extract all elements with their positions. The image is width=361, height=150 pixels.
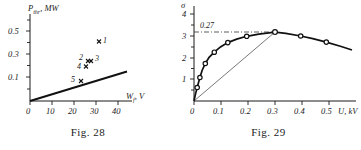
figure-29-caption: Fig. 29 (176, 126, 361, 138)
fig28-point-5 (79, 79, 83, 83)
fig28-point-label-4: 4 (77, 62, 81, 71)
fig29-x-axis-label: U, kV (338, 106, 359, 116)
fig29-xtick-label-03: 0.3 (267, 106, 278, 116)
fig29-ytick-label-3: 3 (181, 31, 186, 41)
fig29-xtick-label-05: 0.5 (321, 106, 332, 116)
fig29-point-1 (195, 85, 199, 89)
fig28-fit-line (30, 72, 127, 102)
fig28-xtick-label-40: 40 (112, 106, 121, 116)
fig28-ytick-label-03: 0.3 (8, 49, 19, 59)
fig28-point-3 (89, 59, 93, 63)
fig28-xtick-label-10: 10 (46, 106, 55, 116)
fig28-ytick-label-05: 0.5 (8, 26, 19, 36)
fig28-xtick-label-20: 20 (68, 106, 77, 116)
fig28-x-axis-label: Wf, V (126, 91, 146, 103)
fig29-ytick-label-2: 2 (182, 53, 187, 63)
fig28-point-label-1: 1 (103, 36, 107, 45)
fig29-point-2 (198, 75, 202, 79)
fig28-point-4 (84, 65, 88, 69)
fig29-ytick-label-4: 4 (182, 9, 187, 19)
fig29-x-axis-label-unit: , kV (344, 106, 359, 116)
fig28-xtick-label-0: 0 (26, 106, 31, 116)
fig28-ytick-label-01: 0.1 (8, 72, 19, 82)
fig28-point-label-3: 3 (94, 54, 99, 63)
fig29-xtick-label-02: 0.2 (240, 106, 251, 116)
fig28-plot: 0.5 0.3 0.1 0 10 20 30 40 Pthr, MW Wf, V (0, 0, 176, 126)
fig29-point-6 (245, 34, 249, 38)
fig29-xtick-label-01: 0.1 (213, 106, 224, 116)
fig28-point-label-5: 5 (71, 75, 75, 84)
fig29-peak-annotation: 0.27 (200, 21, 215, 30)
fig29-chord-line (194, 32, 275, 101)
fig29-xtick-label-0: 0 (190, 106, 195, 116)
fig28-xtick-label-30: 30 (89, 106, 99, 116)
fig29-point-9 (324, 40, 328, 44)
fig29-data-points (195, 30, 329, 90)
fig29-point-3 (203, 61, 207, 65)
fig29-ytick-label-1: 1 (182, 74, 186, 84)
fig29-point-4 (212, 50, 216, 54)
fig28-y-axis-label: Pthr, MW (27, 3, 60, 15)
fig28-x-axis-label-unit: , V (135, 91, 146, 101)
fig29-point-5 (226, 40, 230, 44)
fig29-plot: 4 3 2 1 σ 0 0.1 0.2 0.3 0.4 0.5 U, kV 0.… (176, 0, 361, 126)
fig29-point-8 (299, 34, 303, 38)
fig28-y-axis-label-unit: , MW (40, 3, 59, 13)
fig28-point-1 (97, 40, 101, 44)
fig28-point-label-2: 2 (79, 53, 83, 62)
fig29-xtick-label-04: 0.4 (294, 106, 305, 116)
fig29-point-peak (273, 30, 278, 35)
figure-28-caption: Fig. 28 (0, 126, 176, 138)
